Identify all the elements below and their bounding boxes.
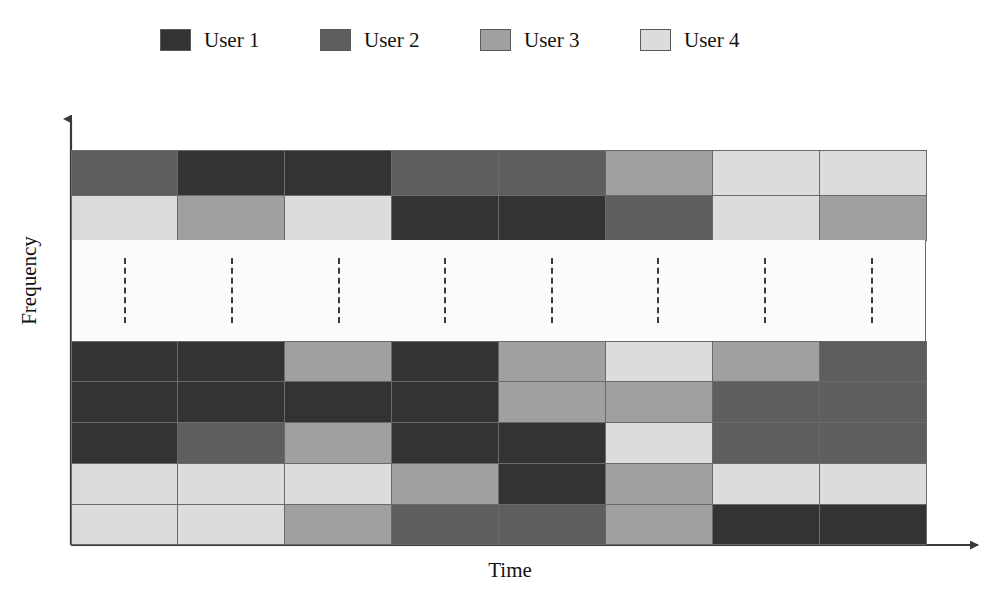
allocation-row <box>71 195 926 240</box>
allocation-cell <box>498 195 606 241</box>
legend-entry-user-4: User 4 <box>640 29 800 51</box>
allocation-cell <box>605 463 713 505</box>
ellipsis-column <box>285 240 392 341</box>
allocation-cell <box>177 463 285 505</box>
allocation-cell <box>605 195 713 241</box>
legend-label-user-1: User 1 <box>204 30 259 51</box>
allocation-cell <box>284 463 392 505</box>
allocation-cell <box>71 381 179 423</box>
legend-swatch-user-4 <box>640 29 671 51</box>
ellipsis-column <box>179 240 286 341</box>
allocation-row <box>71 150 926 195</box>
allocation-cell <box>177 341 285 383</box>
resource-allocation-figure: User 1 User 2 User 3 User 4 Fre <box>0 0 1006 608</box>
vertical-ellipsis-icon <box>764 258 766 323</box>
vertical-ellipsis-icon <box>338 258 340 323</box>
legend-entry-user-3: User 3 <box>480 29 640 51</box>
allocation-cell <box>498 381 606 423</box>
allocation-cell <box>605 381 713 423</box>
allocation-cell <box>498 504 606 546</box>
allocation-cell <box>391 422 499 464</box>
allocation-row <box>71 463 926 504</box>
allocation-cell <box>177 504 285 546</box>
frequency-ellipsis-block <box>71 240 926 341</box>
ellipsis-column <box>392 240 499 341</box>
ellipsis-column <box>818 240 925 341</box>
ellipsis-column <box>72 240 179 341</box>
ellipsis-column <box>605 240 712 341</box>
legend-swatch-user-2 <box>320 29 351 51</box>
vertical-ellipsis-icon <box>657 258 659 323</box>
allocation-row <box>71 382 926 423</box>
allocation-cell <box>819 150 927 196</box>
vertical-ellipsis-icon <box>871 258 873 323</box>
allocation-cell <box>712 150 820 196</box>
allocation-cell <box>391 381 499 423</box>
allocation-cell <box>712 341 820 383</box>
allocation-cell <box>391 463 499 505</box>
allocation-cell <box>71 150 179 196</box>
allocation-cell <box>71 341 179 383</box>
allocation-cell <box>284 195 392 241</box>
legend: User 1 User 2 User 3 User 4 <box>160 24 800 56</box>
allocation-cell <box>498 341 606 383</box>
allocation-cell <box>819 195 927 241</box>
legend-swatch-user-3 <box>480 29 511 51</box>
allocation-cell <box>391 504 499 546</box>
allocation-cell <box>284 341 392 383</box>
allocation-row <box>71 423 926 464</box>
allocation-cell <box>498 463 606 505</box>
ellipsis-column <box>712 240 819 341</box>
allocation-cell <box>177 381 285 423</box>
legend-label-user-4: User 4 <box>684 30 739 51</box>
allocation-cell <box>71 504 179 546</box>
allocation-cell <box>819 381 927 423</box>
allocation-cell <box>605 150 713 196</box>
allocation-cell <box>71 422 179 464</box>
allocation-cell <box>819 463 927 505</box>
allocation-cell <box>819 341 927 383</box>
allocation-cell <box>177 195 285 241</box>
legend-swatch-user-1 <box>160 29 191 51</box>
x-axis-label: Time <box>430 558 590 583</box>
allocation-cell <box>819 504 927 546</box>
legend-entry-user-1: User 1 <box>160 29 320 51</box>
allocation-cell <box>605 504 713 546</box>
allocation-row <box>71 341 926 382</box>
ellipsis-column <box>499 240 606 341</box>
allocation-row <box>71 504 926 545</box>
vertical-ellipsis-icon <box>551 258 553 323</box>
allocation-cell <box>819 422 927 464</box>
vertical-ellipsis-icon <box>124 258 126 323</box>
legend-label-user-3: User 3 <box>524 30 579 51</box>
top-allocation-block <box>71 150 926 240</box>
allocation-cell <box>177 150 285 196</box>
allocation-cell <box>498 150 606 196</box>
allocation-cell <box>284 150 392 196</box>
vertical-ellipsis-icon <box>231 258 233 323</box>
allocation-cell <box>391 195 499 241</box>
allocation-cell <box>391 150 499 196</box>
allocation-cell <box>284 422 392 464</box>
legend-label-user-2: User 2 <box>364 30 419 51</box>
allocation-cell <box>284 381 392 423</box>
legend-entry-user-2: User 2 <box>320 29 480 51</box>
allocation-cell <box>712 422 820 464</box>
allocation-cell <box>712 195 820 241</box>
allocation-cell <box>712 504 820 546</box>
allocation-cell <box>177 422 285 464</box>
allocation-cell <box>605 341 713 383</box>
allocation-cell <box>391 341 499 383</box>
allocation-cell <box>498 422 606 464</box>
allocation-cell <box>284 504 392 546</box>
allocation-cell <box>605 422 713 464</box>
allocation-cell <box>712 381 820 423</box>
allocation-cell <box>71 463 179 505</box>
vertical-ellipsis-icon <box>444 258 446 323</box>
y-axis-label: Frequency <box>17 211 42 351</box>
allocation-cell <box>712 463 820 505</box>
allocation-cell <box>71 195 179 241</box>
bottom-allocation-block <box>71 341 926 545</box>
